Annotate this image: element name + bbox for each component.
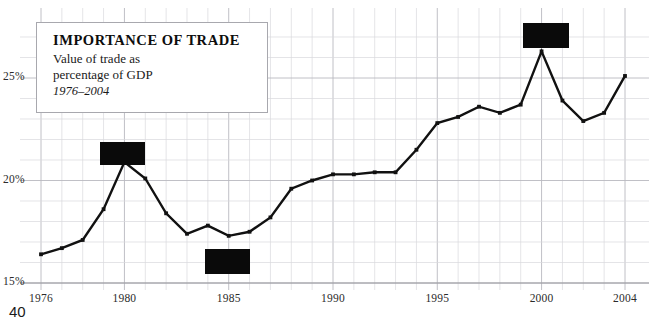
x-axis-tick-label: 1980	[113, 292, 137, 304]
data-point-marker	[164, 211, 168, 215]
callout-subtitle-line1: Value of trade as	[53, 51, 267, 67]
data-point-marker	[623, 74, 627, 78]
y-axis-tick-label: 15%	[3, 275, 25, 287]
data-point-marker	[60, 246, 64, 250]
callout-title: IMPORTANCE OF TRADE	[53, 31, 267, 49]
data-point-marker	[498, 111, 502, 115]
x-axis-tick-label: 1995	[425, 292, 449, 304]
data-point-marker	[289, 187, 293, 191]
data-point-marker	[373, 170, 377, 174]
data-point-marker	[248, 230, 252, 234]
data-point-marker	[394, 170, 398, 174]
chart-title-callout: IMPORTANCE OF TRADE Value of trade as pe…	[36, 22, 268, 113]
data-point-marker	[561, 99, 565, 103]
data-point-marker	[602, 111, 606, 115]
x-axis-tick-label: 1976	[29, 292, 53, 304]
data-point-marker	[39, 252, 43, 256]
data-point-marker	[331, 172, 335, 176]
x-axis-tick-label: 2004	[613, 292, 637, 304]
redaction-box-1980	[100, 142, 145, 165]
callout-subtitle-line2: percentage of GDP	[53, 67, 267, 83]
chart-page: 15%20%25% 1976198019851990199520002004 I…	[0, 0, 649, 327]
data-point-marker	[435, 121, 439, 125]
redaction-box-1985	[205, 249, 250, 274]
x-axis-tick-label: 2000	[530, 292, 554, 304]
data-point-marker	[143, 177, 147, 181]
redaction-box-2000	[523, 23, 569, 48]
data-point-marker	[227, 234, 231, 238]
data-point-marker	[540, 49, 544, 53]
x-axis-tick-label: 1985	[217, 292, 241, 304]
data-point-marker	[269, 216, 273, 220]
y-axis-tick-label: 20%	[3, 173, 25, 185]
data-point-marker	[185, 232, 189, 236]
data-point-marker	[102, 207, 106, 211]
data-point-marker	[352, 172, 356, 176]
y-axis-tick-label: 25%	[3, 70, 25, 82]
page-number: 40	[9, 303, 26, 320]
data-point-marker	[477, 105, 481, 109]
data-point-marker	[310, 179, 314, 183]
callout-date-range: 1976–2004	[53, 84, 267, 100]
x-axis-tick-label: 1990	[321, 292, 345, 304]
data-point-marker	[519, 103, 523, 107]
data-point-marker	[81, 238, 85, 242]
data-point-marker	[581, 119, 585, 123]
data-point-marker	[206, 224, 210, 228]
data-point-marker	[456, 115, 460, 119]
data-point-marker	[415, 148, 419, 152]
